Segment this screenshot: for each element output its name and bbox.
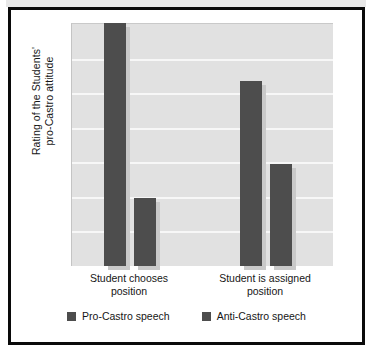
x-axis-label-group-1-line-1: Student is assigned (195, 272, 335, 285)
y-axis-title-line-1: Rating of the Students' (30, 47, 43, 155)
x-axis-label-group-0-line-1: Student chooses (59, 272, 199, 285)
legend-swatch-icon-0 (67, 312, 76, 321)
figure-container: Rating of the Students' pro-Castro attit… (0, 0, 384, 356)
chart-body: Rating of the Students' pro-Castro attit… (11, 10, 362, 342)
bar-anti-castro-group-0[interactable] (134, 198, 156, 266)
legend-label-0: Pro-Castro speech (82, 310, 170, 322)
bar-pro-castro-group-0[interactable] (104, 23, 126, 266)
chart-legend: Pro-Castro speechAnti-Castro speech (11, 310, 362, 322)
legend-label-1: Anti-Castro speech (217, 310, 306, 322)
bar-anti-castro-group-1[interactable] (270, 164, 292, 266)
x-axis-label-group-0-line-2: position (59, 285, 199, 298)
legend-item-1[interactable]: Anti-Castro speech (202, 310, 306, 322)
legend-item-0[interactable]: Pro-Castro speech (67, 310, 170, 322)
top-margin-strip (6, 0, 366, 7)
x-axis-label-group-1: Student is assigned position (195, 272, 335, 298)
y-axis-title-line-2: pro-Castro attitude (43, 57, 56, 146)
legend-swatch-icon-1 (202, 312, 211, 321)
y-axis-title: Rating of the Students' pro-Castro attit… (26, 21, 60, 181)
x-axis-label-group-0: Student chooses position (59, 272, 199, 298)
bar-pro-castro-group-1[interactable] (240, 81, 262, 266)
bars-layer (72, 24, 333, 266)
x-axis-label-group-1-line-2: position (195, 285, 335, 298)
chart-frame: Rating of the Students' pro-Castro attit… (8, 7, 365, 345)
plot-area (71, 23, 333, 266)
